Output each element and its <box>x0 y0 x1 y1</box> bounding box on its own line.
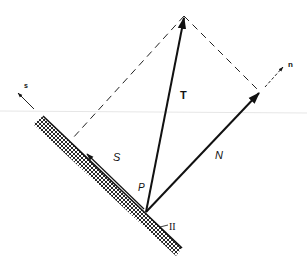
plane-surface <box>33 116 182 256</box>
diagram: T N S P II n s <box>0 0 307 275</box>
normal-vector-N <box>146 93 259 212</box>
label-n: n <box>288 60 293 69</box>
s-axis-arrow <box>18 93 34 109</box>
n-axis-arrow <box>265 67 283 87</box>
diagram-canvas: T N S P II n s <box>0 0 307 275</box>
dashed-line-shear <box>72 16 184 139</box>
scan-line <box>0 111 307 113</box>
label-II: II <box>169 221 176 232</box>
label-T: T <box>180 89 187 101</box>
label-P: P <box>138 182 145 193</box>
traction-vector-T <box>146 18 184 212</box>
plane-label-leader <box>160 225 168 227</box>
label-N: N <box>215 149 223 161</box>
dashed-line-normal <box>184 16 260 92</box>
label-S: S <box>113 151 121 163</box>
label-s: s <box>24 82 28 89</box>
